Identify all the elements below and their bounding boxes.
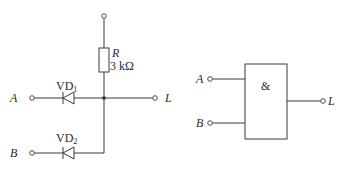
gate-input-a-label: A [195,72,204,86]
supply-terminal [102,14,107,19]
diode-vd1-icon [63,92,74,104]
diode-vd1-label: VD1 [56,79,77,94]
diode-vd2-label: VD2 [56,131,77,146]
input-a-terminal [30,96,35,101]
circuit-diagram: R 3 kΩ A VD1 L B VD2 [0,0,346,169]
and-gate-symbol: & A B L [195,64,335,139]
gate-output-l-terminal [321,99,326,104]
output-l-label: L [164,91,172,105]
and-gate-symbol-text: & [261,79,271,93]
resistor-r [99,48,109,72]
input-a-label: A [9,91,18,105]
schematic-svg: R 3 kΩ A VD1 L B VD2 [0,0,346,169]
resistor-label: R [111,46,120,60]
input-b-terminal [30,151,35,156]
diode-and-circuit: R 3 kΩ A VD1 L B VD2 [9,14,172,160]
diode-vd2-icon [63,147,74,159]
gate-input-a-terminal [208,77,213,82]
gate-input-b-terminal [208,121,213,126]
gate-output-l-label: L [327,94,335,108]
input-b-label: B [10,146,18,160]
output-l-terminal [153,96,158,101]
and-gate-box [245,64,287,139]
resistor-value: 3 kΩ [110,59,134,73]
gate-input-b-label: B [196,116,204,130]
